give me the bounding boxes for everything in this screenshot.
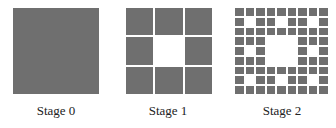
carpet-cell [319, 47, 328, 55]
carpet-cell [235, 76, 244, 84]
carpet-cell [155, 67, 182, 94]
carpet-cell [246, 8, 255, 16]
carpet-cell [256, 37, 265, 45]
carpet-cell [319, 76, 328, 84]
carpet-cell [277, 67, 286, 75]
carpet-cell [256, 8, 265, 16]
carpet-cell [298, 67, 307, 75]
carpet-cell [235, 67, 244, 75]
carpet-cell [235, 57, 244, 65]
carpet-hole [288, 47, 297, 55]
stage-1: Stage 1 [112, 0, 224, 128]
carpet-cell [319, 86, 328, 94]
carpet-cell [298, 18, 307, 26]
carpet-cell [309, 28, 318, 36]
carpet-cell [267, 18, 276, 26]
carpet-cell [246, 86, 255, 94]
carpet-hole [267, 57, 276, 65]
carpet-hole [277, 57, 286, 65]
carpet-cell [155, 8, 182, 35]
carpet-cell [246, 37, 255, 45]
carpet-hole [277, 37, 286, 45]
carpet-cell [309, 67, 318, 75]
carpet-cell [185, 37, 212, 64]
stage-0-label: Stage 0 [0, 103, 112, 119]
carpet-cell [309, 8, 318, 16]
carpet-cell [235, 18, 244, 26]
stage-0: Stage 0 [0, 0, 112, 128]
stage-2: Stage 2 [224, 0, 336, 128]
carpet-cell [256, 86, 265, 94]
carpet-cell [298, 57, 307, 65]
carpet-cell [319, 37, 328, 45]
carpet-cell [126, 67, 153, 94]
carpet-hole [155, 37, 182, 64]
carpet-cell [256, 57, 265, 65]
carpet-cell [185, 8, 212, 35]
carpet-cell [319, 57, 328, 65]
carpet-cell [309, 57, 318, 65]
stage-1-grid [126, 8, 212, 94]
carpet-cell [277, 86, 286, 94]
carpet-hole [277, 18, 286, 26]
carpet-cell [235, 47, 244, 55]
carpet-hole [288, 37, 297, 45]
carpet-cell [288, 18, 297, 26]
carpet-hole [309, 18, 318, 26]
carpet-cell [319, 67, 328, 75]
carpet-cell [256, 47, 265, 55]
stage-1-label: Stage 1 [112, 103, 224, 119]
stage-2-label: Stage 2 [226, 103, 336, 119]
carpet-cell [267, 76, 276, 84]
carpet-cell [288, 28, 297, 36]
carpet-cell [235, 28, 244, 36]
carpet-cell [267, 86, 276, 94]
carpet-cell [235, 8, 244, 16]
carpet-hole [267, 37, 276, 45]
carpet-hole [288, 57, 297, 65]
carpet-cell [319, 8, 328, 16]
carpet-hole [246, 18, 255, 26]
carpet-cell [235, 86, 244, 94]
carpet-cell [288, 67, 297, 75]
carpet-hole [277, 76, 286, 84]
carpet-cell [298, 28, 307, 36]
stage-0-square [13, 8, 99, 94]
carpet-cell [256, 28, 265, 36]
carpet-cell [298, 76, 307, 84]
carpet-hole [277, 47, 286, 55]
carpet-cell [298, 8, 307, 16]
carpet-hole [309, 47, 318, 55]
carpet-cell [309, 86, 318, 94]
carpet-cell [267, 67, 276, 75]
carpet-cell [256, 67, 265, 75]
carpet-hole [246, 76, 255, 84]
carpet-cell [267, 28, 276, 36]
carpet-cell [126, 8, 153, 35]
carpet-cell [277, 8, 286, 16]
carpet-cell [309, 37, 318, 45]
carpet-cell [235, 37, 244, 45]
carpet-hole [246, 47, 255, 55]
stage-2-grid [235, 8, 328, 94]
carpet-cell [298, 37, 307, 45]
carpet-cell [319, 28, 328, 36]
carpet-cell [246, 67, 255, 75]
carpet-cell [246, 28, 255, 36]
carpet-cell [319, 18, 328, 26]
carpet-cell [246, 57, 255, 65]
carpet-cell [185, 67, 212, 94]
carpet-cell [298, 86, 307, 94]
carpet-cell [288, 86, 297, 94]
carpet-cell [256, 18, 265, 26]
carpet-cell [298, 47, 307, 55]
carpet-cell [288, 76, 297, 84]
carpet-cell [256, 76, 265, 84]
carpet-cell [277, 28, 286, 36]
carpet-cell [267, 8, 276, 16]
carpet-cell [126, 37, 153, 64]
carpet-cell [288, 8, 297, 16]
carpet-hole [267, 47, 276, 55]
carpet-hole [309, 76, 318, 84]
